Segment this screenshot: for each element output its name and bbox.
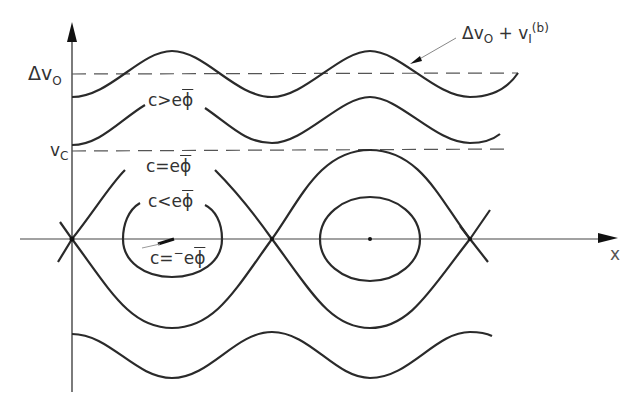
- annotation-pointer-arrow-icon: [410, 56, 422, 64]
- label-c-gt-e-phi: c>eϕ: [148, 92, 193, 109]
- vc-label: vC: [50, 142, 68, 162]
- delta-v0-dashed-line: [72, 73, 518, 74]
- passing-trajectory-c-gt: [72, 105, 145, 145]
- x-point-right: [468, 237, 472, 241]
- vc-dashed-line: [72, 149, 510, 151]
- top-curve-annotation: ΔvO + vI(b): [462, 22, 549, 45]
- label-c-eq-neg-e-phi: c=−eϕ: [150, 247, 205, 267]
- label-c-eq-e-phi: c=eϕ: [146, 158, 191, 175]
- y-axis-arrow-icon: [67, 22, 77, 42]
- separatrix-upper: [72, 170, 125, 239]
- passing-trajectory-c-gt-cont: [205, 97, 500, 143]
- annotation-pointer-line: [416, 38, 456, 61]
- phase-space-diagram: [0, 0, 640, 412]
- passing-trajectory-bottom: [72, 332, 492, 378]
- x-point-left: [70, 237, 75, 242]
- o-point-right: [368, 237, 372, 241]
- delta-v0-label: ΔvO: [28, 64, 62, 87]
- label-c-lt-e-phi: c<eϕ: [148, 193, 193, 210]
- x-axis-label: x: [610, 246, 620, 263]
- x-point-mid: [270, 237, 274, 241]
- o-point-left-marker: [158, 239, 174, 244]
- x-axis-arrow-icon: [598, 233, 618, 243]
- separatrix-lower: [72, 239, 470, 328]
- separatrix-upper-right: [215, 150, 490, 239]
